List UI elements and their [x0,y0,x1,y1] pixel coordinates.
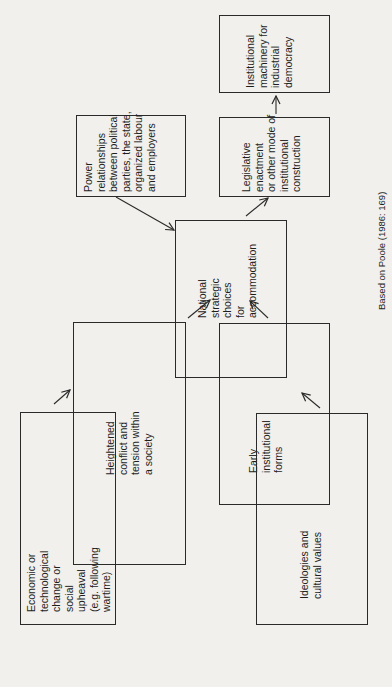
node-heightened-label: Heightened conflict and tension within a… [104,411,154,475]
node-national-label: National strategic choices for accommoda… [196,244,259,318]
arrow-economic-to-heightened [54,390,70,404]
arrow-power-to-national [116,197,174,230]
node-power-label: Power relationships between political pa… [82,111,157,192]
arrow-national-to-legislative [246,198,268,216]
caption: Based on Poole (1986: 169) [376,192,389,310]
node-legislative-label: Legislative enactment or other mode of i… [240,115,303,192]
node-ideologies-label: Ideologies and cultural values [298,531,323,599]
node-machinery-label: Institutional machinery for industrial d… [244,24,294,88]
diagram-canvas: Economic or technological change or soci… [0,0,392,687]
